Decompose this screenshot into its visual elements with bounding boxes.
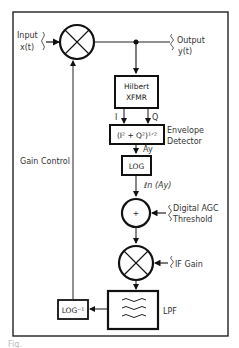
hilbert-label: Hilbert: [124, 82, 149, 91]
if-gain-label: IF Gain: [175, 260, 203, 269]
input-brace: [42, 32, 45, 50]
log-label: LOG: [129, 162, 145, 171]
lpf-block: [108, 291, 158, 329]
gain-control-label: Gain Control: [20, 157, 70, 166]
input-signal-label: x(t): [20, 43, 34, 52]
ay-label: Ay: [143, 145, 153, 154]
detector-label: Detector: [167, 137, 203, 146]
outer-border: [13, 12, 228, 336]
lpf-label: LPF: [163, 307, 177, 316]
envelope-formula: (I² + Q²)¹ᐟ²: [117, 131, 157, 140]
antilog-block: LOG⁻¹: [58, 300, 88, 319]
input-multiplier: [60, 25, 94, 59]
log-block: LOG: [122, 156, 151, 175]
envelope-detector-block: (I² + Q²)¹ᐟ²: [110, 125, 164, 144]
if-gain-multiplier: [119, 246, 153, 280]
output-brace: [171, 34, 174, 50]
if-gain-brace: [171, 256, 174, 268]
input-label: Input: [17, 31, 38, 40]
threshold-label-1: Digital AGC: [173, 204, 219, 213]
plus-symbol: +: [133, 209, 139, 218]
threshold-brace: [169, 205, 172, 221]
agc-block-diagram: Input x(t) Output y(t) Hilbert XFMR I Q …: [0, 0, 239, 348]
i-label: I: [115, 113, 117, 122]
antilog-label: LOG⁻¹: [62, 306, 85, 315]
summer-junction: +: [122, 199, 150, 227]
xfmr-label: XFMR: [126, 93, 147, 102]
output-label: Output: [177, 36, 205, 45]
threshold-label-2: Threshold: [172, 215, 212, 224]
q-label: Q: [152, 113, 158, 122]
output-signal-label: y(t): [178, 47, 192, 56]
ln-ay-label: ℓn (Ay): [143, 181, 171, 190]
figure-caption: Fig.: [8, 340, 22, 348]
envelope-label: Envelope: [167, 126, 204, 135]
hilbert-transformer-block: Hilbert XFMR: [115, 76, 158, 108]
